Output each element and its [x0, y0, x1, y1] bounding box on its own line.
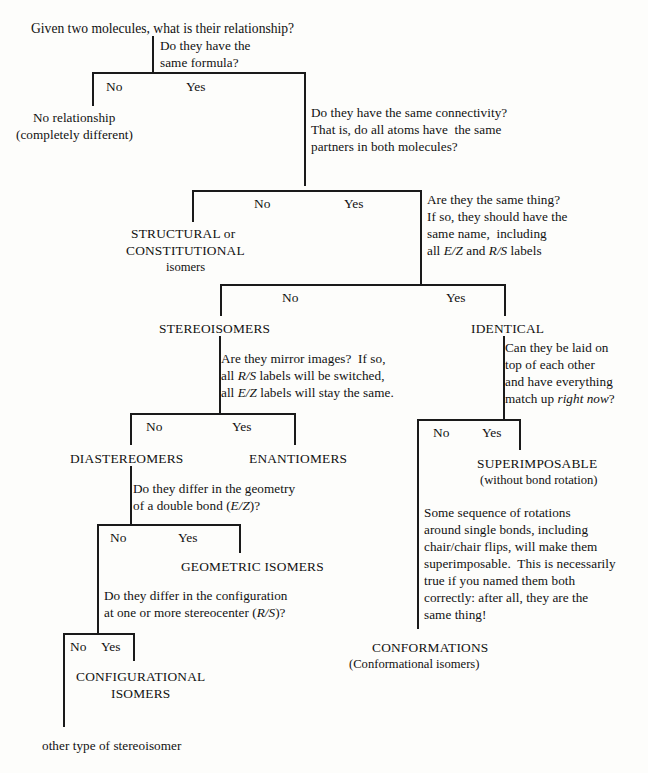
branch5-yes-label: Yes — [482, 424, 501, 441]
branch1-yes-label: Yes — [186, 78, 205, 95]
q3-rs-label: R/S — [489, 243, 507, 258]
q7-rs-label: R/S — [257, 605, 275, 620]
q6-l2a: of a double bond ( — [133, 498, 231, 513]
question-stereocenter-line1: Do they differ in the configuration — [104, 588, 288, 605]
connector-branch3-no — [220, 284, 222, 316]
connector-branch2-bar — [192, 190, 422, 192]
q7-l2a: at one or more stereocenter ( — [104, 605, 257, 620]
question-same-thing-line2: If so, they should have the — [427, 209, 568, 226]
connector-q5-stem — [503, 336, 505, 420]
connector-branch1-bar — [92, 72, 306, 74]
q6-l2c: )? — [250, 498, 260, 513]
question-same-connectivity-line2: That is, do all atoms have the same — [311, 122, 501, 139]
q5-right-now-emphasis: right now — [557, 391, 608, 406]
q6-ez-label: E/Z — [231, 498, 250, 513]
note-rotations-line7: same thing! — [424, 607, 486, 624]
branch2-no-label: No — [254, 195, 270, 212]
connector-branch5-yes — [519, 419, 521, 450]
connector-branch2-yes — [420, 190, 422, 286]
q5-l4a: match up — [505, 391, 557, 406]
terminal-conformations-line1: CONFORMATIONS — [372, 639, 488, 656]
branch1-no-label: No — [106, 78, 122, 95]
branch4-no-label: No — [146, 418, 162, 435]
connector-branch5-no — [417, 419, 419, 629]
question-same-formula-line1: Do they have the — [160, 38, 251, 55]
branch5-no-label: No — [433, 424, 449, 441]
terminal-structural-line3: isomers — [166, 259, 205, 275]
branch2-yes-label: Yes — [344, 195, 363, 212]
branch3-no-label: No — [282, 289, 298, 306]
branch7-no-label: No — [70, 638, 86, 655]
question-same-formula-line2: same formula? — [160, 55, 239, 72]
connector-branch4-no — [130, 413, 132, 445]
connector-branch5-bar — [417, 419, 521, 421]
question-stereocenter-line2: at one or more stereocenter (R/S)? — [104, 605, 286, 622]
terminal-enantiomers: ENANTIOMERS — [249, 450, 347, 467]
connector-branch6-bar — [97, 524, 241, 526]
question-mirror-images-line1: Are they mirror images? If so, — [221, 351, 386, 368]
connector-branch1-yes — [304, 72, 306, 186]
connector-branch6-no — [97, 524, 99, 634]
terminal-configurational-line1: CONFIGURATIONAL — [76, 668, 205, 685]
connector-branch3-bar — [220, 284, 506, 286]
terminal-structural-line2: CONSTITUTIONAL — [126, 242, 245, 259]
question-same-connectivity-line1: Do they have the same connectivity? — [311, 105, 507, 122]
q3-l4c: and — [463, 243, 489, 258]
question-same-thing-line4: all E/Z and R/S labels — [427, 243, 542, 260]
terminal-superimposable-line1: SUPERIMPOSABLE — [477, 455, 597, 472]
terminal-structural-line1: STRUCTURAL or — [131, 225, 235, 242]
q4-ez-label: E/Z — [238, 385, 257, 400]
terminal-configurational-line2: ISOMERS — [111, 685, 170, 702]
connector-branch2-no — [192, 190, 194, 222]
connector-q6-stem — [130, 466, 132, 525]
flowchart-canvas: Given two molecules, what is their relat… — [0, 0, 648, 773]
question-laid-on-top-line4: match up right now? — [505, 391, 615, 408]
connector-branch7-bar — [63, 633, 135, 635]
note-rotations-line6: correctly: after all, they are the — [424, 590, 588, 607]
note-rotations-line1: Some sequence of rotations — [424, 505, 571, 522]
branch6-yes-label: Yes — [178, 529, 197, 546]
question-laid-on-top-line3: and have everything — [505, 374, 613, 391]
question-same-thing-line3: same name, including — [427, 226, 547, 243]
question-same-thing-line1: Are they the same thing? — [427, 192, 560, 209]
q3-l4a: all — [427, 243, 444, 258]
terminal-geometric-isomers: GEOMETRIC ISOMERS — [181, 558, 324, 575]
connector-q4-stem — [219, 336, 221, 414]
connector-branch1-no — [92, 72, 94, 106]
q4-l3c: labels will stay the same. — [257, 385, 394, 400]
note-rotations-line2: around single bonds, including — [424, 522, 588, 539]
branch4-yes-label: Yes — [232, 418, 251, 435]
question-laid-on-top-line2: top of each other — [505, 357, 595, 374]
q4-l3a: all — [221, 385, 238, 400]
note-rotations-line5: true if you named them both — [424, 573, 575, 590]
terminal-no-relationship-line1: No relationship — [33, 110, 115, 127]
q3-l4e: labels — [507, 243, 541, 258]
branch6-no-label: No — [110, 529, 126, 546]
q3-ez-label: E/Z — [444, 243, 463, 258]
q4-rs-label: R/S — [238, 368, 256, 383]
question-mirror-images-line3: all E/Z labels will stay the same. — [221, 385, 394, 402]
connector-branch3-yes — [504, 284, 506, 316]
branch7-yes-label: Yes — [101, 638, 120, 655]
connector-branch7-no — [63, 633, 65, 727]
connector-branch6-yes — [239, 524, 241, 553]
terminal-conformations-line2: (Conformational isomers) — [349, 656, 479, 672]
connector-branch4-bar — [130, 413, 296, 415]
q7-l2c: )? — [275, 605, 285, 620]
terminal-stereoisomers: STEREOISOMERS — [159, 320, 270, 337]
q4-l2c: labels will be switched, — [256, 368, 384, 383]
connector-q1-stem — [152, 36, 154, 73]
terminal-superimposable-line2: (without bond rotation) — [480, 472, 598, 488]
connector-branch7-yes — [133, 633, 135, 661]
question-same-connectivity-line3: partners in both molecules? — [311, 139, 458, 156]
question-mirror-images-line2: all R/S labels will be switched, — [221, 368, 385, 385]
terminal-identical: IDENTICAL — [471, 320, 544, 337]
q5-l4c: ? — [609, 391, 615, 406]
question-double-bond-line1: Do they differ in the geometry — [133, 481, 295, 498]
question-double-bond-line2: of a double bond (E/Z)? — [133, 498, 260, 515]
connector-branch4-yes — [294, 413, 296, 445]
question-laid-on-top-line1: Can they be laid on — [505, 340, 609, 357]
terminal-diastereomers: DIASTEREOMERS — [70, 450, 183, 467]
branch3-yes-label: Yes — [446, 289, 465, 306]
terminal-other-stereoisomer: other type of stereoisomer — [42, 738, 181, 755]
